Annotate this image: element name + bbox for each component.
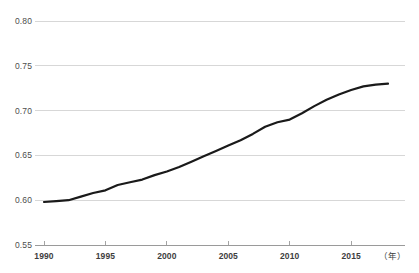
x-axis-tick-label: 2015	[331, 251, 371, 261]
chart-plot-area	[0, 0, 419, 273]
y-axis-tick-label: 0.80	[4, 16, 32, 26]
y-axis-tick-label: 0.60	[4, 195, 32, 205]
x-axis-tick-label: 2000	[147, 251, 187, 261]
x-axis-tick-label: 2010	[270, 251, 310, 261]
x-axis-ticks	[44, 241, 351, 245]
x-axis-tick-label: 2005	[208, 251, 248, 261]
gridlines	[35, 21, 405, 245]
y-axis-tick-label: 0.75	[4, 61, 32, 71]
x-axis-tick-label: 1995	[85, 251, 125, 261]
line-chart: 0.550.600.650.700.750.80 199019952000200…	[0, 0, 419, 273]
x-axis-unit-label: （年）	[379, 251, 406, 261]
x-axis-tick-label: 1990	[24, 251, 64, 261]
y-axis-tick-label: 0.70	[4, 106, 32, 116]
y-axis-tick-label: 0.65	[4, 150, 32, 160]
y-axis-tick-label: 0.55	[4, 240, 32, 250]
data-line-series-1	[44, 84, 388, 202]
